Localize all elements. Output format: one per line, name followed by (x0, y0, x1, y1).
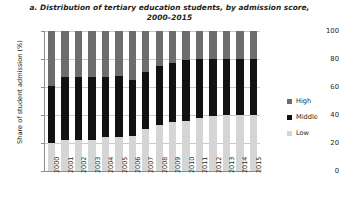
bar-segment-middle (209, 59, 216, 116)
legend-label: Low (296, 129, 309, 137)
bar-stack (196, 31, 203, 171)
x-tick-label: 2005 (121, 157, 129, 173)
x-tick-label: 2004 (107, 157, 115, 173)
bar-segment-high (142, 31, 149, 72)
bar-segment-high (182, 31, 189, 60)
bar-segment-middle (236, 59, 243, 115)
bar-stack (236, 31, 243, 171)
x-tick-label: 2003 (94, 157, 102, 173)
bar-segment-middle (48, 86, 55, 143)
bar-segment-middle (115, 76, 122, 138)
legend-swatch-icon (287, 131, 292, 136)
x-tick-label: 2009 (174, 157, 182, 173)
y-tick-label: 80 (301, 55, 339, 63)
legend-item: Middle (287, 109, 318, 125)
bar-segment-high (115, 31, 122, 76)
legend-label: Middle (296, 113, 318, 121)
bar-stack (156, 31, 163, 171)
x-tick-label: 2008 (161, 157, 169, 173)
bar-segment-high (48, 31, 55, 86)
legend-swatch-icon (287, 99, 292, 104)
bar-stack (115, 31, 122, 171)
bar-segment-middle (156, 66, 163, 125)
bar-segment-middle (102, 77, 109, 137)
bar-stack (142, 31, 149, 171)
bar-stack (223, 31, 230, 171)
y-axis-title: Share of student admission (%) (16, 17, 24, 167)
bar-stack (129, 31, 136, 171)
legend-swatch-icon (287, 115, 292, 120)
bar-segment-high (169, 31, 176, 63)
bar-stack (169, 31, 176, 171)
bar-segment-high (223, 31, 230, 59)
x-tick-label: 2015 (255, 157, 263, 173)
bar-segment-high (61, 31, 68, 77)
x-tick-label: 2007 (147, 157, 155, 173)
bar-segment-high (209, 31, 216, 59)
x-tick-label: 2010 (188, 157, 196, 173)
chart-legend: HighMiddleLow (287, 93, 318, 141)
legend-label: High (296, 97, 311, 105)
y-tick-label: 100 (301, 27, 339, 35)
bar-segment-middle (250, 59, 257, 115)
x-tick-label: 2014 (241, 157, 249, 173)
bar-stack (75, 31, 82, 171)
bar-stack (182, 31, 189, 171)
bar-segment-high (75, 31, 82, 77)
bar-segment-high (102, 31, 109, 77)
bar-segment-middle (223, 59, 230, 115)
bar-segment-high (129, 31, 136, 80)
bar-segment-middle (142, 72, 149, 129)
bar-segment-middle (196, 59, 203, 118)
bar-segment-high (196, 31, 203, 59)
legend-item: Low (287, 125, 318, 141)
chart-title-line2: 2000–2015 (147, 13, 192, 22)
chart-title-line1: a. Distribution of tertiary education st… (30, 3, 310, 12)
bar-segment-middle (129, 80, 136, 136)
bar-series-group (45, 31, 260, 171)
bar-segment-high (250, 31, 257, 59)
bar-stack (250, 31, 257, 171)
x-tick-label: 2012 (215, 157, 223, 173)
bar-segment-high (156, 31, 163, 66)
bar-segment-high (88, 31, 95, 77)
bar-segment-middle (88, 77, 95, 140)
chart-title: a. Distribution of tertiary education st… (0, 3, 339, 23)
x-tick-label: 2001 (67, 157, 75, 173)
plot-area (44, 31, 259, 171)
y-tick-label: 60 (301, 83, 339, 91)
bar-stack (88, 31, 95, 171)
bar-segment-high (236, 31, 243, 59)
bar-segment-middle (169, 63, 176, 122)
bar-stack (61, 31, 68, 171)
x-tick-label: 2011 (201, 157, 209, 173)
bar-segment-middle (182, 60, 189, 120)
bar-segment-middle (75, 77, 82, 140)
x-axis-labels: 2000200120022003200420052006200720082009… (44, 173, 259, 218)
y-tick-label: 0 (301, 167, 339, 175)
legend-item: High (287, 93, 318, 109)
x-tick-label: 2000 (53, 157, 61, 173)
bar-stack (102, 31, 109, 171)
bar-stack (48, 31, 55, 171)
x-tick-label: 2006 (134, 157, 142, 173)
bar-segment-middle (61, 77, 68, 140)
bar-stack (209, 31, 216, 171)
x-tick-label: 2002 (80, 157, 88, 173)
x-tick-label: 2013 (228, 157, 236, 173)
chart-figure: a. Distribution of tertiary education st… (0, 0, 339, 221)
